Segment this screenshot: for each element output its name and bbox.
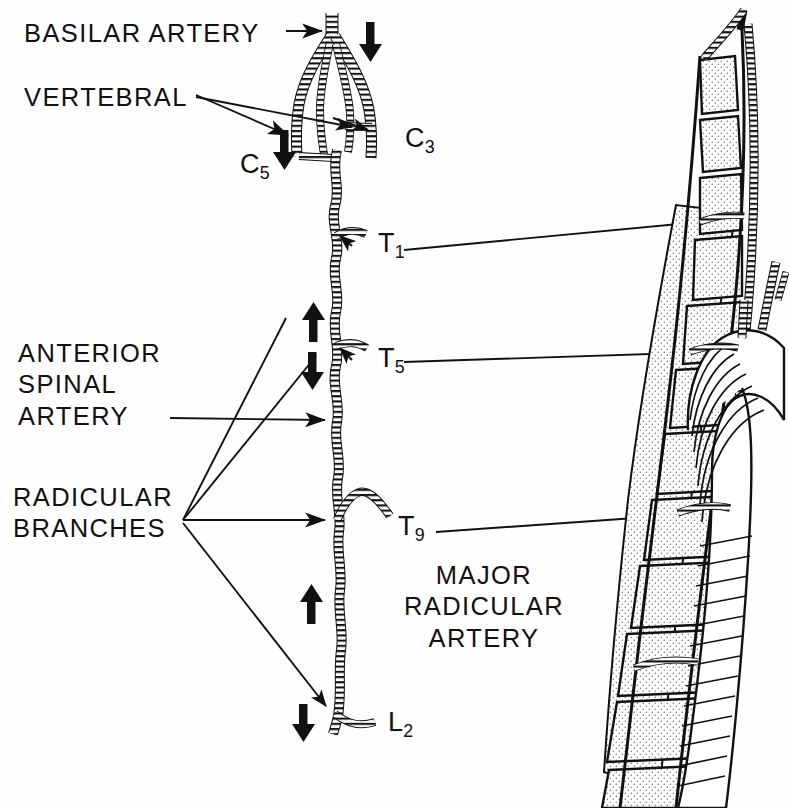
level-label-t5: T5 — [378, 342, 405, 379]
major-radicular-artery-t9 — [337, 492, 390, 520]
leader-vertebral-a — [196, 95, 288, 135]
radicular-branch-t1 — [336, 231, 366, 236]
label-anterior-spinal-artery-line1: ANTERIOR — [18, 338, 161, 369]
flow-arrow-asa-lower-up — [300, 584, 323, 624]
label-major-radicular-artery-line2: RADICULAR — [404, 591, 564, 622]
flow-arrow-basilar-down — [359, 22, 382, 62]
label-anterior-spinal-artery-line3: ARTERY — [18, 401, 161, 432]
leader-anterior-spinal-artery — [170, 418, 325, 420]
leader-radicular-b — [183, 356, 316, 520]
level-label-t9: T9 — [398, 510, 425, 547]
label-radicular-branches-line1: RADICULAR — [13, 482, 173, 513]
leader-vertebral-b — [196, 97, 352, 127]
label-anterior-spinal-artery: ANTERIOR SPINAL ARTERY — [18, 338, 161, 432]
label-vertebral: VERTEBRAL — [24, 82, 188, 113]
flow-arrow-asa-upper-up — [302, 302, 325, 342]
label-major-radicular-artery-line1: MAJOR — [404, 560, 564, 591]
label-radicular-branches: RADICULAR BRANCHES — [13, 482, 173, 545]
label-major-radicular-artery-line3: ARTERY — [404, 623, 564, 654]
leader-radicular-d — [183, 523, 326, 706]
level-label-c5: C5 — [240, 148, 270, 185]
label-anterior-spinal-artery-line2: SPINAL — [18, 369, 161, 400]
radicular-branch-c5 — [299, 156, 333, 158]
spinal-column-apex — [704, 10, 744, 58]
radicular-branch-t5 — [336, 343, 367, 348]
label-major-radicular-artery: MAJOR RADICULAR ARTERY — [404, 560, 564, 654]
level-label-l2: L2 — [388, 706, 413, 743]
anatomical-figure: BASILAR ARTERY VERTEBRAL ANTERIOR SPINAL… — [0, 0, 789, 808]
label-radicular-branches-line2: BRANCHES — [13, 513, 173, 544]
leader-t1-to-anatomic — [404, 222, 700, 250]
level-label-t1: T1 — [378, 227, 405, 264]
label-basilar-artery: BASILAR ARTERY — [24, 18, 260, 49]
flow-arrow-asa-lower-down — [292, 704, 315, 742]
level-label-c3: C3 — [405, 122, 435, 159]
anatomic-spine-panel — [602, 10, 786, 808]
